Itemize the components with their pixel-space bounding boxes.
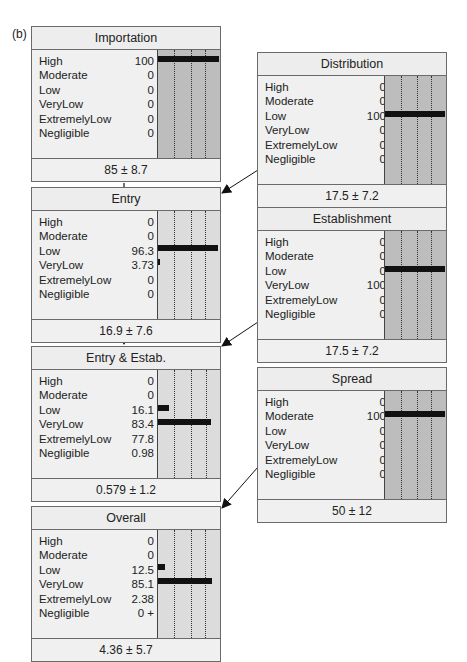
belief-bar	[158, 405, 169, 411]
state-values: 0096.3 3.7300	[112, 215, 154, 301]
belief-bars	[157, 370, 220, 478]
node-entry-estab[interactable]: Entry & Estab. HighModerateLow VeryLowEx…	[31, 346, 221, 502]
belief-bars	[157, 530, 220, 638]
state-labels: HighModerateLow VeryLowExtremelyLowNegli…	[39, 215, 111, 301]
state-values: 0012.5 85.12.380 +	[112, 534, 154, 620]
belief-bars	[384, 231, 446, 339]
node-title: Spread	[258, 368, 446, 391]
state-labels: HighModerateLow VeryLowExtremelyLowNegli…	[39, 374, 111, 460]
state-values: 0016.1 83.477.80.98	[112, 374, 154, 460]
belief-bar	[158, 564, 165, 570]
node-summary: 17.5 ± 7.2	[258, 340, 446, 362]
belief-bars	[384, 76, 446, 184]
belief-bar	[158, 245, 218, 251]
node-summary: 17.5 ± 7.2	[258, 185, 446, 207]
node-entry[interactable]: Entry HighModerateLow VeryLowExtremelyLo…	[31, 187, 221, 343]
node-summary: 50 ± 12	[258, 500, 446, 522]
node-title: Overall	[32, 507, 220, 530]
belief-bars	[157, 211, 220, 319]
node-title: Establishment	[258, 208, 446, 231]
belief-bar	[385, 266, 445, 272]
node-title: Entry	[32, 188, 220, 211]
node-overall[interactable]: Overall HighModerateLow VeryLowExtremely…	[31, 506, 221, 662]
node-title: Entry & Estab.	[32, 347, 220, 370]
state-values: 01000 000	[338, 395, 386, 481]
state-labels: HighModerateLow VeryLowExtremelyLowNegli…	[265, 80, 337, 166]
node-establishment[interactable]: Establishment HighModerateLow VeryLowExt…	[257, 207, 447, 363]
belief-bar	[158, 259, 160, 265]
state-labels: HighModerateLow VeryLowExtremelyLowNegli…	[265, 395, 337, 481]
state-labels: HighModerateLow VeryLowExtremelyLowNegli…	[39, 534, 111, 620]
node-importation[interactable]: Importation HighModerateLow VeryLowExtre…	[31, 26, 221, 182]
node-summary: 0.579 ± 1.2	[32, 479, 220, 501]
node-distribution[interactable]: Distribution HighModerateLow VeryLowExtr…	[257, 52, 447, 208]
state-labels: HighModerateLow VeryLowExtremelyLowNegli…	[39, 54, 111, 140]
belief-bars	[384, 391, 446, 499]
state-values: 10000 000	[112, 54, 154, 140]
belief-bars	[157, 50, 220, 158]
node-summary: 4.36 ± 5.7	[32, 639, 220, 661]
belief-bar	[158, 419, 211, 425]
belief-bar	[385, 111, 445, 117]
node-summary: 16.9 ± 7.6	[32, 320, 220, 342]
belief-bar	[158, 578, 212, 584]
belief-bar	[158, 56, 219, 62]
node-summary: 85 ± 8.7	[32, 159, 220, 181]
node-title: Importation	[32, 27, 220, 50]
state-labels: HighModerateLow VeryLowExtremelyLowNegli…	[265, 235, 337, 321]
node-title: Distribution	[258, 53, 446, 76]
belief-bar	[385, 411, 445, 417]
state-values: 00100 000	[338, 80, 386, 166]
state-values: 000 10000	[338, 235, 386, 321]
node-spread[interactable]: Spread HighModerateLow VeryLowExtremelyL…	[257, 367, 447, 523]
